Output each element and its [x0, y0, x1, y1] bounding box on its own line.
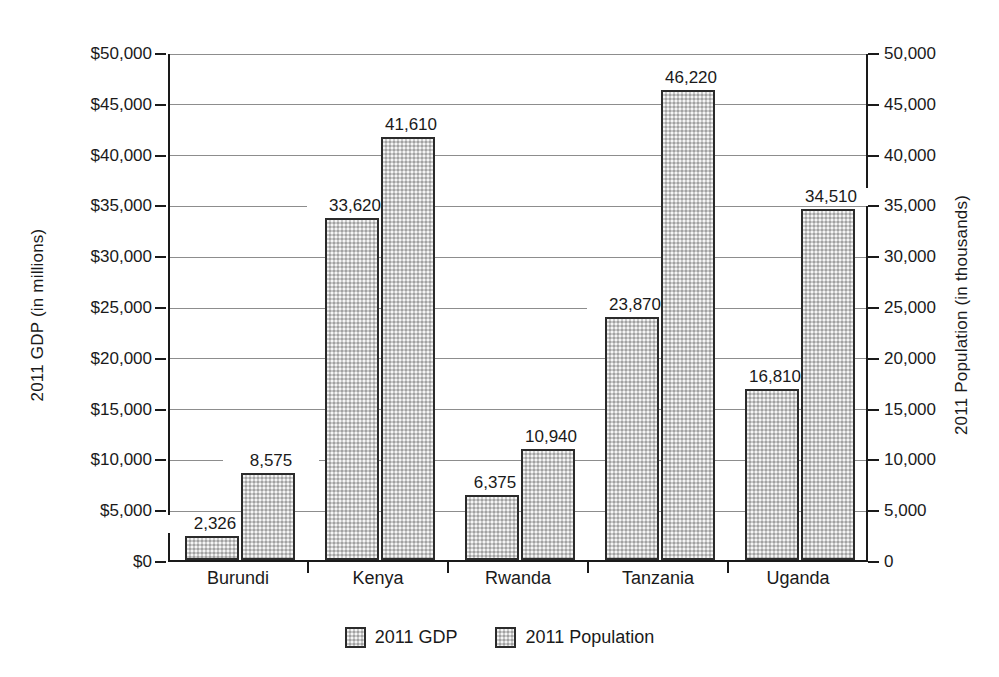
tick-mark-right [868, 53, 879, 55]
y-axis-right-tick-labels: 05,00010,00015,00020,00025,00030,00035,0… [884, 54, 994, 562]
tick-mark-right [868, 409, 879, 411]
gridline [170, 54, 866, 55]
tick-mark-left [155, 358, 166, 360]
y-axis-left-tick-15000: $15,000 [91, 401, 152, 418]
x-axis-tick-mark [307, 562, 309, 573]
tick-mark-left [155, 561, 166, 563]
y-axis-right-tick-15000: 15,000 [884, 401, 936, 418]
gridline [170, 206, 866, 207]
tick-mark-right [868, 561, 879, 563]
legend-label: 2011 GDP [375, 627, 458, 648]
y-axis-left-tick-0: $0 [133, 553, 152, 570]
x-axis-label-burundi: Burundi [168, 568, 308, 589]
tick-mark-right [868, 358, 879, 360]
tick-mark-left [155, 510, 166, 512]
x-axis-label-tanzania: Tanzania [588, 568, 728, 589]
chart-legend: 2011 GDP2011 Population [0, 627, 999, 648]
legend-swatch-icon [345, 627, 366, 648]
y-axis-right-tick-45000: 45,000 [884, 96, 936, 113]
y-axis-left-tick-10000: $10,000 [91, 451, 152, 468]
y-axis-right-tick-30000: 30,000 [884, 248, 936, 265]
y-axis-left-tick-40000: $40,000 [91, 147, 152, 164]
tick-mark-right [868, 307, 879, 309]
y-axis-left-tick-45000: $45,000 [91, 96, 152, 113]
y-axis-left-tick-30000: $30,000 [91, 248, 152, 265]
gridline [170, 358, 866, 359]
x-axis-label-uganda: Uganda [728, 568, 868, 589]
bar-kenya-gdp [325, 218, 379, 560]
bar-value-label: 46,220 [643, 69, 739, 87]
y-axis-right-tick-40000: 40,000 [884, 147, 936, 164]
x-axis-category-labels: BurundiKenyaRwandaTanzaniaUganda [168, 568, 868, 598]
bar-burundi-gdp [185, 536, 239, 560]
tick-mark-left [155, 205, 166, 207]
y-axis-left-tick-25000: $25,000 [91, 299, 152, 316]
tick-mark-right [868, 256, 879, 258]
bar-rwanda-gdp [465, 495, 519, 560]
y-axis-left-tick-35000: $35,000 [91, 197, 152, 214]
tick-mark-right [868, 205, 879, 207]
tick-mark-right [868, 459, 879, 461]
x-axis-tick-mark [727, 562, 729, 573]
tick-mark-right [868, 155, 879, 157]
x-axis-label-kenya: Kenya [308, 568, 448, 589]
bar-burundi-population [241, 473, 295, 560]
bar-tanzania-gdp [605, 317, 659, 560]
y-axis-right-tick-0: 0 [884, 553, 893, 570]
legend-swatch-icon [495, 627, 516, 648]
bar-value-label: 10,940 [503, 428, 599, 446]
bar-tanzania-population [661, 90, 715, 560]
bar-uganda-population [801, 209, 855, 560]
legend-item-population[interactable]: 2011 Population [495, 627, 654, 648]
tick-mark-left [155, 256, 166, 258]
tick-mark-right [868, 510, 879, 512]
y-axis-right-tick-25000: 25,000 [884, 299, 936, 316]
bar-chart: 2011 GDP (in millions) 2011 Population (… [0, 0, 999, 677]
tick-mark-left [155, 409, 166, 411]
y-axis-right-tick-35000: 35,000 [884, 197, 936, 214]
legend-label: 2011 Population [525, 627, 654, 648]
y-axis-right-tick-50000: 50,000 [884, 45, 936, 62]
bar-value-label: 8,575 [223, 452, 319, 470]
legend-item-gdp[interactable]: 2011 GDP [345, 627, 458, 648]
gridline [170, 257, 866, 258]
tick-mark-left [155, 53, 166, 55]
gridline [170, 104, 866, 105]
y-axis-left-tick-50000: $50,000 [91, 45, 152, 62]
tick-mark-left [155, 104, 166, 106]
y-axis-right-tick-5000: 5,000 [884, 502, 927, 519]
bar-value-label: 34,510 [783, 188, 879, 206]
y-axis-left-tick-20000: $20,000 [91, 350, 152, 367]
tick-mark-left [155, 155, 166, 157]
y-axis-left-tick-labels: $0$5,000$10,000$15,000$20,000$25,000$30,… [0, 54, 152, 562]
tick-mark-left [155, 307, 166, 309]
tick-mark-left [155, 459, 166, 461]
bar-rwanda-population [521, 449, 575, 560]
gridline [170, 155, 866, 156]
x-axis-tick-mark [447, 562, 449, 573]
x-axis-label-rwanda: Rwanda [448, 568, 588, 589]
x-axis-tick-mark [587, 562, 589, 573]
y-axis-right-tick-10000: 10,000 [884, 451, 936, 468]
plot-area: 2,3268,57533,62041,6106,37510,94023,8704… [168, 54, 868, 562]
y-axis-right-tick-20000: 20,000 [884, 350, 936, 367]
bar-value-label: 41,610 [363, 116, 459, 134]
bar-kenya-population [381, 137, 435, 560]
gridline [170, 308, 866, 309]
y-axis-left-tick-5000: $5,000 [100, 502, 152, 519]
tick-mark-right [868, 104, 879, 106]
bar-uganda-gdp [745, 389, 799, 560]
